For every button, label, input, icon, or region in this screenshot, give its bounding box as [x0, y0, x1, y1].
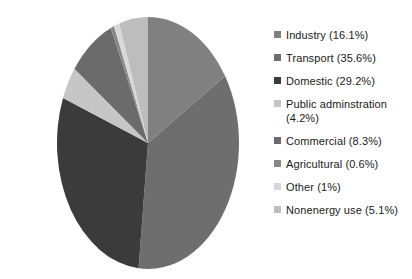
- legend-item-industry[interactable]: Industry (16.1%): [274, 28, 412, 42]
- legend-label-domestic: Domestic (29.2%): [286, 74, 375, 88]
- legend-label-commercial: Commercial (8.3%): [286, 134, 382, 148]
- legend-item-domestic[interactable]: Domestic (29.2%): [274, 74, 412, 88]
- legend-swatch-industry: [274, 31, 281, 38]
- pie-chart-svg: [57, 17, 239, 269]
- legend-label-other: Other (1%): [286, 180, 341, 194]
- legend-label-public-adminstration: Public adminstration (4.2%): [286, 97, 387, 125]
- legend-item-nonenergy-use[interactable]: Nonenergy use (5.1%): [274, 203, 412, 217]
- legend-item-other[interactable]: Other (1%): [274, 180, 412, 194]
- legend-swatch-commercial: [274, 137, 281, 144]
- legend-item-commercial[interactable]: Commercial (8.3%): [274, 134, 412, 148]
- legend-swatch-nonenergy-use: [274, 206, 281, 213]
- legend-swatch-other: [274, 183, 281, 190]
- legend-item-public-adminstration[interactable]: Public adminstration (4.2%): [274, 97, 412, 125]
- legend-swatch-domestic: [274, 77, 281, 84]
- pie-slice-group: [57, 17, 239, 269]
- legend-label-transport: Transport (35.6%): [286, 51, 376, 65]
- chart-legend: Industry (16.1%)Transport (35.6%)Domesti…: [274, 28, 412, 226]
- legend-swatch-agricultural: [274, 160, 281, 167]
- legend-label-industry: Industry (16.1%): [286, 28, 368, 42]
- legend-label-nonenergy-use: Nonenergy use (5.1%): [286, 203, 398, 217]
- legend-swatch-transport: [274, 54, 281, 61]
- legend-label-agricultural: Agricultural (0.6%): [286, 157, 378, 171]
- legend-item-agricultural[interactable]: Agricultural (0.6%): [274, 157, 412, 171]
- pie-chart-figure: Industry (16.1%)Transport (35.6%)Domesti…: [0, 0, 412, 279]
- pie-chart-plot-area: [57, 17, 239, 269]
- legend-swatch-public-adminstration: [274, 100, 281, 107]
- legend-item-transport[interactable]: Transport (35.6%): [274, 51, 412, 65]
